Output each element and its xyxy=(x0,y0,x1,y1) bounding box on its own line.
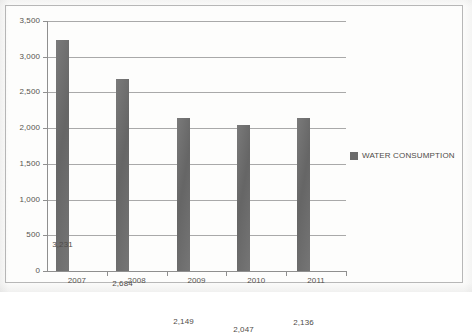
legend-entry-label: WATER CONSUMPTION xyxy=(362,151,455,160)
y-axis-label-0: 0 xyxy=(35,266,40,275)
chart-legend: WATER CONSUMPTION xyxy=(350,151,455,160)
bar-2011[interactable] xyxy=(297,118,310,271)
y-axis-label-2000: 2,000 xyxy=(19,123,40,132)
bar-value-2009: 2,149 xyxy=(164,317,203,326)
gridline-2500 xyxy=(47,92,346,93)
bar-2007[interactable] xyxy=(56,40,69,271)
bar-2009[interactable] xyxy=(177,118,190,272)
x-tick-sep-5 xyxy=(346,271,347,276)
y-axis-label-1500: 1,500 xyxy=(19,159,40,168)
y-axis-label-3000: 3,000 xyxy=(19,52,40,61)
legend-swatch-icon xyxy=(350,152,358,160)
y-tick-1500 xyxy=(43,164,48,165)
bar-value-2011: 2,136 xyxy=(284,318,323,327)
y-axis-label-3500: 3,500 xyxy=(19,16,40,25)
x-axis-label-2010: 2010 xyxy=(226,276,286,285)
bar-2010[interactable] xyxy=(237,125,250,271)
x-axis-label-2007: 2007 xyxy=(47,276,107,285)
bar-value-2007: 3,231 xyxy=(43,240,82,249)
y-axis-label-2500: 2,500 xyxy=(19,87,40,96)
x-axis-label-2011: 2011 xyxy=(286,276,346,285)
y-tick-500 xyxy=(43,235,48,236)
y-tick-2000 xyxy=(43,128,48,129)
x-axis-label-2008: 2008 xyxy=(107,276,167,285)
y-tick-1000 xyxy=(43,200,48,201)
y-axis-label-1000: 1,000 xyxy=(19,195,40,204)
x-axis-label-2009: 2009 xyxy=(167,276,227,285)
y-tick-2500 xyxy=(43,92,48,93)
bar-2008[interactable] xyxy=(116,79,129,271)
x-axis: 2007 2008 2009 2010 2011 xyxy=(47,271,346,289)
plot-area: 3,231 2,684 2,149 2,047 2,136 xyxy=(47,21,346,271)
y-axis-line xyxy=(47,21,48,272)
y-axis-label-500: 500 xyxy=(26,230,40,239)
y-tick-3000 xyxy=(43,57,48,58)
bar-value-2010: 2,047 xyxy=(224,325,263,334)
chart-frame: 3,231 2,684 2,149 2,047 2,136 3,500 3,00… xyxy=(5,5,463,283)
y-tick-3500 xyxy=(43,21,48,22)
gridline-3500 xyxy=(47,21,346,22)
y-axis-labels: 3,500 3,000 2,500 2,000 1,500 1,000 500 … xyxy=(6,6,40,298)
gridline-3000 xyxy=(47,57,346,58)
